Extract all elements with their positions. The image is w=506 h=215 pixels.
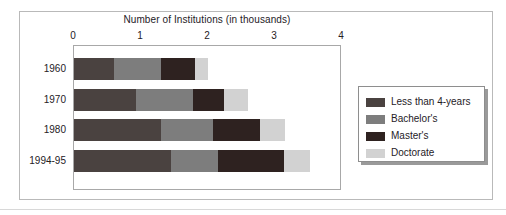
chart-title: Number of Institutions (in thousands)	[73, 14, 341, 25]
legend-swatch-icon	[366, 98, 385, 107]
legend-swatch-icon	[366, 132, 385, 141]
bar-segment	[161, 119, 213, 141]
x-axis-tick-labels: 01234	[73, 30, 341, 43]
y-category-label: 1994-95	[29, 155, 66, 166]
x-tick-label: 3	[271, 30, 277, 41]
y-axis-category-labels: 1960197019801994-95	[19, 45, 70, 190]
bar-segment	[74, 119, 161, 141]
bar-segment	[195, 58, 208, 80]
legend-label: Bachelor's	[391, 114, 437, 124]
stacked-bar	[74, 89, 248, 111]
bar-segment	[161, 58, 195, 80]
x-tick-label: 0	[70, 30, 76, 41]
y-category-label: 1980	[44, 124, 66, 135]
y-category-label: 1960	[44, 63, 66, 74]
bar-segment	[136, 89, 193, 111]
x-tick-label: 2	[204, 30, 210, 41]
stacked-bar	[74, 150, 310, 172]
legend-swatch-icon	[366, 149, 385, 158]
bar-segment	[193, 89, 224, 111]
bar-segment	[114, 58, 161, 80]
x-tick-label: 4	[338, 30, 344, 41]
bar-segment	[224, 89, 248, 111]
x-tick-label: 1	[137, 30, 143, 41]
legend-item: Doctorate	[366, 145, 434, 161]
legend-label: Master's	[391, 131, 428, 141]
bottom-divider	[0, 209, 506, 210]
bar-segment	[284, 150, 310, 172]
stacked-bar	[74, 58, 208, 80]
legend-swatch-icon	[366, 115, 385, 124]
y-category-label: 1970	[44, 94, 66, 105]
bar-segment	[260, 119, 285, 141]
bar-segment	[74, 58, 114, 80]
chart-figure: Number of Institutions (in thousands) 01…	[0, 0, 506, 215]
chart-legend: Less than 4-yearsBachelor'sMaster'sDocto…	[358, 86, 485, 162]
bar-segment	[74, 89, 136, 111]
legend-label: Less than 4-years	[391, 97, 471, 107]
legend-item: Less than 4-years	[366, 94, 471, 110]
legend-item: Master's	[366, 128, 428, 144]
legend-item: Bachelor's	[366, 111, 437, 127]
stacked-bar	[74, 119, 285, 141]
legend-label: Doctorate	[391, 148, 434, 158]
bar-segment	[213, 119, 259, 141]
plot-area	[73, 45, 341, 190]
bar-segment	[218, 150, 284, 172]
bar-segment	[171, 150, 218, 172]
bar-segment	[74, 150, 171, 172]
